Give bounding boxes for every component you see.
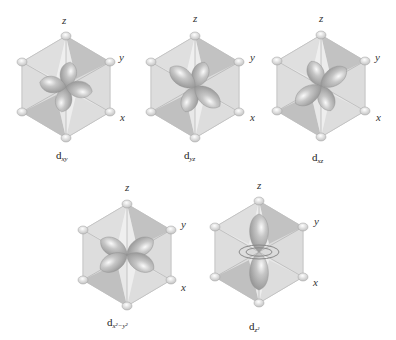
axis-label-x: x bbox=[119, 111, 125, 123]
orbital-label-dxz: dxz bbox=[312, 151, 324, 165]
orbital-label-dxy: dxy bbox=[56, 149, 69, 163]
octahedron bbox=[78, 200, 176, 310]
axis-label-x: x bbox=[180, 281, 186, 293]
axis-label-y: y bbox=[249, 51, 255, 63]
axis-label-z: z bbox=[318, 12, 324, 24]
axis-label-z: z bbox=[124, 181, 130, 193]
axis-label-x: x bbox=[249, 111, 255, 123]
octahedron bbox=[146, 32, 244, 142]
orbital-label-dyz: dyz bbox=[184, 149, 196, 163]
panel-dz2: z y x dz² bbox=[210, 179, 319, 334]
axis-label-x: x bbox=[312, 276, 318, 288]
panel-dx2-y2: z y x dx²−y² bbox=[78, 181, 186, 330]
panel-dxz: z y x dxz bbox=[272, 12, 381, 165]
octahedron bbox=[17, 32, 115, 142]
axis-label-z: z bbox=[192, 12, 198, 24]
axis-label-x: x bbox=[375, 111, 381, 123]
axis-label-y: y bbox=[118, 51, 124, 63]
octahedron bbox=[272, 31, 370, 141]
orbital-label-dx2-y2: dx²−y² bbox=[107, 316, 129, 330]
panel-dyz: z y x dyz bbox=[146, 12, 255, 163]
axis-label-y: y bbox=[374, 51, 380, 63]
orbital-label-dz2: dz² bbox=[249, 320, 260, 334]
axis-label-z: z bbox=[256, 179, 262, 191]
axis-label-y: y bbox=[313, 215, 319, 227]
panel-dxy: z y x dxy bbox=[17, 14, 125, 163]
axis-label-y: y bbox=[180, 218, 186, 230]
octahedron bbox=[210, 197, 308, 307]
orbital-diagram-figure: z y x dxy z y x dyz bbox=[0, 0, 396, 340]
axis-label-z: z bbox=[61, 14, 67, 26]
